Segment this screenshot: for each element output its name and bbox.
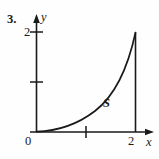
y-axis-label: y	[41, 11, 47, 24]
x-tick-label-2: 2	[128, 135, 134, 148]
figure-container: 3. y x 2 2 0 S	[0, 0, 159, 159]
origin-label: 0	[25, 135, 31, 148]
region-label-s: S	[103, 97, 110, 110]
y-axis-arrowhead	[33, 14, 40, 23]
y-tick-label-2: 2	[24, 26, 30, 39]
curve-path	[37, 33, 136, 132]
x-axis-label: x	[146, 136, 152, 149]
graph-canvas	[0, 0, 159, 159]
problem-number: 3.	[7, 13, 16, 26]
